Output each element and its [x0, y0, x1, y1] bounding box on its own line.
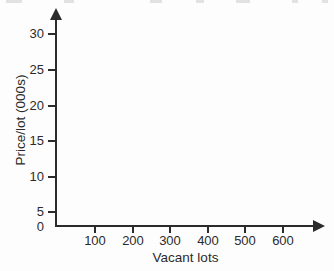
- x-axis-title: Vacant lots: [55, 250, 316, 265]
- y-axis-tick: [48, 33, 56, 35]
- x-axis-tick-label: 600: [263, 234, 303, 248]
- x-axis-tick-label: 500: [225, 234, 265, 248]
- y-axis-line: [55, 18, 57, 227]
- x-axis-tick: [94, 226, 96, 233]
- origin-label: 0: [0, 220, 44, 233]
- x-axis-tick: [169, 226, 171, 233]
- x-axis-tick: [244, 226, 246, 233]
- x-axis-tick-label: 400: [188, 234, 228, 248]
- x-axis-tick: [132, 226, 134, 233]
- y-axis-title-text: Price/lot (000s): [13, 20, 29, 220]
- y-axis-tick: [48, 69, 56, 71]
- chart-figure: 30 25 20 15 10 5 0 100 200 300 400 500 6…: [0, 0, 334, 271]
- plot-area: [57, 18, 313, 225]
- origin-label-text: 0: [0, 220, 44, 233]
- y-axis-arrowhead-icon: [50, 8, 62, 20]
- x-axis-tick-label: 200: [113, 234, 153, 248]
- x-axis-tick: [282, 226, 284, 233]
- y-axis-tick: [48, 105, 56, 107]
- y-axis-tick: [48, 140, 56, 142]
- x-axis-tick: [207, 226, 209, 233]
- y-axis-title: Price/lot (000s): [13, 20, 29, 220]
- y-axis-tick: [48, 176, 56, 178]
- x-axis-tick-label: 300: [150, 234, 190, 248]
- x-axis-tick-label: 100: [75, 234, 115, 248]
- y-axis-tick: [48, 211, 56, 213]
- x-axis-arrowhead-icon: [313, 220, 325, 232]
- clipped-text-artifact: [0, 0, 334, 4]
